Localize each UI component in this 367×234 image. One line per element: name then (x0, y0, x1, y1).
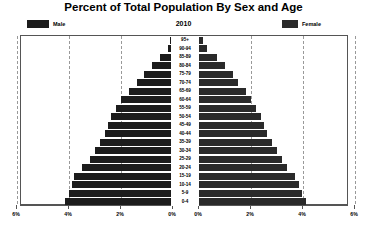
age-group-label: 15-19 (171, 172, 199, 181)
bar-row: 75-79 (21, 70, 347, 79)
bar-female (199, 156, 282, 163)
x-tick-label: 2% (116, 211, 124, 217)
bar-female (199, 79, 238, 86)
x-tick-label: 2% (246, 211, 254, 217)
bar-male (95, 147, 173, 154)
gridline-right-6 (355, 36, 356, 204)
bar-row: 25-29 (21, 155, 347, 164)
bar-male (105, 130, 173, 137)
bar-row: 55-59 (21, 104, 347, 113)
bar-row: 5-9 (21, 189, 347, 198)
legend-item-female: Female (282, 20, 321, 28)
bar-female (199, 37, 203, 44)
age-group-label: 10-14 (171, 181, 199, 190)
bar-female (199, 105, 256, 112)
age-group-label: 95+ (171, 36, 199, 45)
age-group-label: 65-69 (171, 87, 199, 96)
bar-male (116, 105, 173, 112)
x-tick-label: 0% (168, 211, 176, 217)
legend-swatch-female-icon (282, 20, 298, 28)
chart-title: Percent of Total Population By Sex and A… (0, 1, 367, 13)
x-tick-label: 6% (12, 211, 20, 217)
bar-female (199, 71, 233, 78)
age-group-label: 35-39 (171, 138, 199, 147)
bar-row: 70-74 (21, 79, 347, 88)
bar-female (199, 96, 251, 103)
bar-female (199, 147, 277, 154)
gridline-left-6 (17, 36, 18, 204)
bar-row: 40-44 (21, 130, 347, 139)
age-group-label: 5-9 (171, 189, 199, 198)
bar-male (90, 156, 173, 163)
bar-male (72, 181, 173, 188)
x-tick-label: 4% (298, 211, 306, 217)
bar-female (199, 113, 261, 120)
bar-row: 80-84 (21, 62, 347, 71)
plot-area: 95+90-9485-8980-8475-7970-7465-6960-6455… (20, 35, 348, 205)
bar-male (121, 96, 173, 103)
bar-male (137, 79, 173, 86)
bar-row: 20-24 (21, 164, 347, 173)
bar-female (199, 164, 287, 171)
bar-female (199, 62, 225, 69)
x-tick (250, 205, 251, 209)
bar-row: 90-94 (21, 45, 347, 54)
x-tick (354, 205, 355, 209)
bar-male (129, 88, 173, 95)
age-group-label: 0-4 (171, 198, 199, 207)
bar-row: 95+ (21, 36, 347, 45)
age-group-label: 40-44 (171, 130, 199, 139)
bar-row: 45-49 (21, 121, 347, 130)
age-group-label: 60-64 (171, 96, 199, 105)
bar-row: 60-64 (21, 96, 347, 105)
x-tick-label: 0% (194, 211, 202, 217)
bar-female (199, 45, 207, 52)
age-group-label: 55-59 (171, 104, 199, 113)
age-group-label: 30-34 (171, 147, 199, 156)
bar-row: 10-14 (21, 181, 347, 190)
bar-row: 85-89 (21, 53, 347, 62)
bar-male (82, 164, 173, 171)
bar-male (111, 113, 173, 120)
age-group-label: 75-79 (171, 70, 199, 79)
bar-female (199, 54, 217, 61)
bar-row: 50-54 (21, 113, 347, 122)
age-group-label: 25-29 (171, 155, 199, 164)
bar-female (199, 130, 267, 137)
bar-female (199, 122, 264, 129)
bar-row: 35-39 (21, 138, 347, 147)
legend-label-female: Female (302, 21, 321, 27)
age-group-label: 90-94 (171, 45, 199, 54)
bar-female (199, 173, 295, 180)
bar-row: 30-34 (21, 147, 347, 156)
chart-container: Percent of Total Population By Sex and A… (0, 0, 367, 234)
bar-female (199, 88, 246, 95)
bar-female (199, 181, 299, 188)
age-group-label: 70-74 (171, 79, 199, 88)
x-tick (120, 205, 121, 209)
x-tick-label: 4% (64, 211, 72, 217)
x-tick (68, 205, 69, 209)
bar-row: 15-19 (21, 172, 347, 181)
bar-male (69, 190, 173, 197)
x-tick-label: 6% (350, 211, 358, 217)
bar-male (152, 62, 173, 69)
x-tick (302, 205, 303, 209)
bar-rows: 95+90-9485-8980-8475-7970-7465-6960-6455… (21, 36, 347, 204)
bar-male (100, 139, 173, 146)
age-group-label: 50-54 (171, 113, 199, 122)
age-group-label: 85-89 (171, 53, 199, 62)
bar-male (74, 173, 173, 180)
age-group-label: 20-24 (171, 164, 199, 173)
age-group-label: 45-49 (171, 121, 199, 130)
bar-female (199, 139, 272, 146)
x-tick (16, 205, 17, 209)
bar-male (108, 122, 173, 129)
bar-male (144, 71, 173, 78)
age-group-label: 80-84 (171, 62, 199, 71)
bar-row: 65-69 (21, 87, 347, 96)
bar-female (199, 190, 302, 197)
